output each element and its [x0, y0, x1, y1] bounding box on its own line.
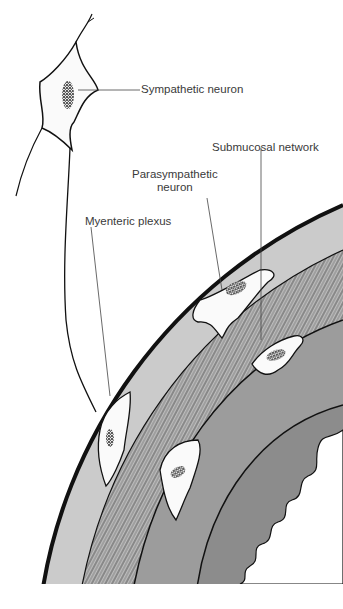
myenteric-plexus-label: Myenteric plexus	[85, 215, 171, 228]
sympathetic-neuron-label: Sympathetic neuron	[141, 83, 243, 96]
sympathetic-neuron	[16, 14, 140, 412]
sympathetic-nucleus	[62, 81, 74, 109]
parasympathetic-label-line1: Parasympathetic	[132, 168, 218, 181]
submucosal-network-label: Submucosal network	[212, 141, 319, 154]
parasympathetic-neuron-label: Parasympathetic neuron	[132, 168, 218, 194]
parasympathetic-label-line2: neuron	[132, 181, 218, 194]
